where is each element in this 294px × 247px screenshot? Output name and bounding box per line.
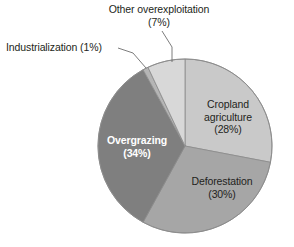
pie-label-overgrazing: Overgrazing (34%) [85,134,189,159]
pie-label-cropland-agriculture-line2: agriculture [186,111,270,124]
leader-line-other-overexploitation [162,31,172,62]
pie-chart-figure: Other overexploitation (7%) Industrializ… [0,0,294,247]
pie-label-other-overexploitation-line1: Other overexploitation [92,3,226,16]
pie-label-cropland-agriculture-line1: Cropland [186,98,270,111]
pie-label-overgrazing-line2: (34%) [85,147,189,160]
pie-label-other-overexploitation-line2: (7%) [92,16,226,29]
pie-label-other-overexploitation: Other overexploitation (7%) [92,3,226,28]
pie-label-deforestation: Deforestation (30%) [172,175,272,200]
pie-label-deforestation-line2: (30%) [172,188,272,201]
pie-label-industrialization: Industrialization (1%) [6,41,102,54]
pie-label-deforestation-line1: Deforestation [172,175,272,188]
pie-label-industrialization-line1: Industrialization (1%) [6,41,102,54]
leader-line-industrialization [118,48,146,68]
pie-label-cropland-agriculture: Cropland agriculture (28%) [186,98,270,136]
pie-label-overgrazing-line1: Overgrazing [85,134,189,147]
pie-label-cropland-agriculture-line3: (28%) [186,123,270,136]
